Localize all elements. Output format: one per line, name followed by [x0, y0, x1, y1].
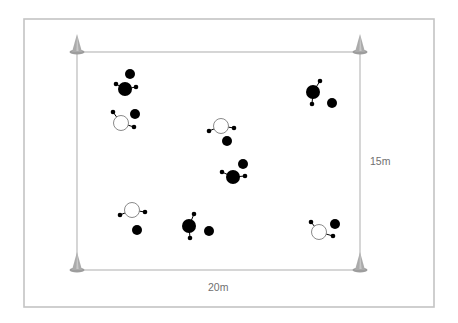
ball-icon — [130, 109, 140, 119]
ball-icon — [327, 98, 337, 108]
hand-dot-icon — [143, 210, 148, 215]
player-group — [182, 212, 214, 241]
player-filled-icon — [306, 85, 320, 99]
hand-dot-icon — [331, 234, 336, 239]
ball-icon — [330, 219, 340, 229]
ball-icon — [222, 136, 232, 146]
player-open-icon — [214, 119, 229, 134]
training-drill-diagram: 15m 20m — [0, 0, 458, 323]
hand-dot-icon — [318, 79, 323, 84]
cone-bottom-left-icon — [70, 252, 85, 273]
width-dimension-label: 20m — [208, 281, 229, 293]
hand-dot-icon — [134, 85, 139, 90]
hand-dot-icon — [188, 236, 193, 241]
ball-icon — [125, 69, 135, 79]
player-filled-icon — [118, 82, 132, 96]
player-group — [309, 219, 340, 240]
hand-dot-icon — [132, 125, 137, 130]
hand-dot-icon — [310, 102, 315, 107]
player-group — [111, 109, 140, 131]
player-filled-icon — [182, 219, 196, 233]
height-dimension-label: 15m — [370, 155, 391, 167]
hand-dot-icon — [192, 212, 197, 217]
hand-dot-icon — [114, 82, 119, 87]
hand-dot-icon — [309, 220, 314, 225]
ball-icon — [132, 225, 142, 235]
cone-top-left-icon — [70, 34, 85, 55]
player-group — [220, 159, 248, 184]
hand-dot-icon — [232, 126, 237, 131]
cone-top-right-icon — [353, 34, 368, 55]
cone-bottom-right-icon — [353, 252, 368, 273]
player-open-icon — [125, 203, 140, 218]
ball-icon — [204, 226, 214, 236]
hand-dot-icon — [207, 129, 212, 134]
player-open-icon — [312, 225, 327, 240]
player-group — [306, 79, 337, 108]
hand-dot-icon — [118, 213, 123, 218]
hand-dot-icon — [111, 110, 116, 115]
hand-dot-icon — [220, 170, 225, 175]
player-group — [118, 203, 148, 236]
player-open-icon — [114, 116, 129, 131]
hand-dot-icon — [243, 174, 248, 179]
player-group — [207, 119, 237, 147]
player-group — [114, 69, 139, 96]
ball-icon — [238, 159, 248, 169]
player-filled-icon — [226, 170, 240, 184]
